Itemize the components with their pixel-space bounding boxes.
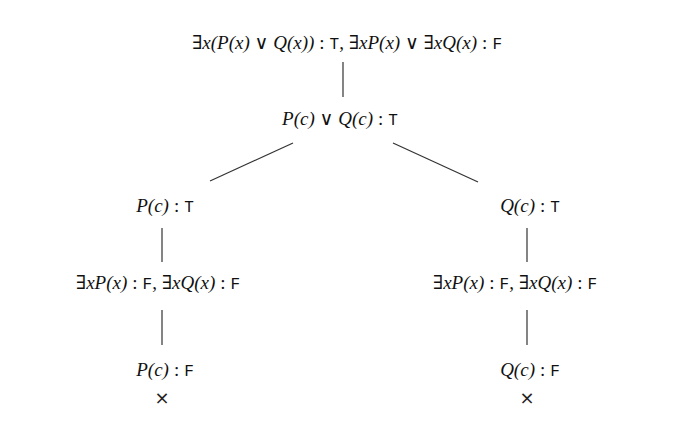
root-value-1: T: [330, 36, 340, 54]
disjunction-value: T: [388, 112, 398, 130]
left-node-3: P(c):F: [136, 360, 194, 380]
left-node-2: ∃xP(x):F, ∃xQ(x):F: [76, 273, 240, 293]
right-node-2: ∃xP(x):F, ∃xQ(x):F: [433, 273, 597, 293]
root-node: ∃x(P(x) ∨ Q(x)):T, ∃xP(x) ∨ ∃xQ(x):F: [192, 33, 502, 53]
left-closed-branch-icon: ×: [154, 389, 169, 407]
root-value-2: F: [492, 36, 502, 54]
right-closed-branch-icon: ×: [519, 389, 534, 407]
root-formula-2: ∃xP(x) ∨ ∃xQ(x): [349, 32, 477, 53]
edge-disjunction-to-left: [210, 143, 293, 181]
disjunction-formula: P(c) ∨ Q(c): [282, 108, 373, 129]
root-formula-1: ∃x(P(x) ∨ Q(x)): [192, 32, 314, 53]
disjunction-node: P(c) ∨ Q(c):T: [282, 109, 398, 129]
left-node-1: P(c):T: [136, 196, 194, 216]
edge-disjunction-to-right: [393, 143, 478, 182]
right-node-1: Q(c):T: [500, 196, 560, 216]
right-node-3: Q(c):F: [500, 360, 560, 380]
tree-edges: [0, 0, 676, 426]
